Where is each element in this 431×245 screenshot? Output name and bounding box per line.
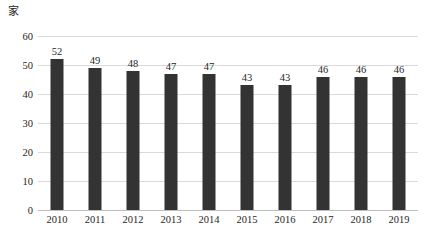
y-axis-tick-label: 50 bbox=[23, 60, 34, 71]
bar-value-label: 46 bbox=[356, 64, 367, 75]
bar-group[interactable]: 432015 bbox=[228, 36, 266, 210]
x-axis-tick-label: 2010 bbox=[47, 214, 68, 226]
bar-value-label: 46 bbox=[318, 64, 329, 75]
bar-group[interactable]: 522010 bbox=[38, 36, 76, 210]
y-axis-tick-label: 30 bbox=[23, 118, 34, 129]
bar[interactable] bbox=[203, 74, 216, 210]
bar-group[interactable]: 462018 bbox=[342, 36, 380, 210]
bar[interactable] bbox=[355, 77, 368, 210]
bar-group[interactable]: 462019 bbox=[380, 36, 418, 210]
x-axis-tick-label: 2015 bbox=[237, 214, 258, 226]
bar[interactable] bbox=[127, 71, 140, 210]
bar-group[interactable]: 472013 bbox=[152, 36, 190, 210]
x-axis-tick-label: 2019 bbox=[389, 214, 410, 226]
bar[interactable] bbox=[51, 59, 64, 210]
x-axis-tick-label: 2013 bbox=[161, 214, 182, 226]
x-axis-tick-label: 2018 bbox=[351, 214, 372, 226]
y-axis-unit-label: 家 bbox=[8, 5, 19, 18]
x-axis-tick-label: 2014 bbox=[199, 214, 220, 226]
y-axis-tick-label: 60 bbox=[23, 31, 34, 42]
bar-value-label: 52 bbox=[52, 46, 63, 57]
bar[interactable] bbox=[89, 68, 102, 210]
x-axis-tick-label: 2017 bbox=[313, 214, 334, 226]
bar-value-label: 47 bbox=[166, 61, 177, 72]
bar[interactable] bbox=[317, 77, 330, 210]
bar[interactable] bbox=[241, 85, 254, 210]
bar-value-label: 47 bbox=[204, 61, 215, 72]
plot-area: 6050403020100522010492011482012472013472… bbox=[38, 36, 418, 210]
bar-group[interactable]: 482012 bbox=[114, 36, 152, 210]
x-axis-tick-label: 2016 bbox=[275, 214, 296, 226]
bar-value-label: 46 bbox=[394, 64, 405, 75]
bar-value-label: 48 bbox=[128, 58, 139, 69]
bar[interactable] bbox=[279, 85, 292, 210]
y-axis-tick-label: 20 bbox=[23, 147, 34, 158]
bar-group[interactable]: 462017 bbox=[304, 36, 342, 210]
bar-value-label: 43 bbox=[242, 72, 253, 83]
x-axis-tick-label: 2011 bbox=[85, 214, 106, 226]
y-axis-tick-label: 0 bbox=[28, 205, 33, 216]
y-axis-tick-label: 40 bbox=[23, 89, 34, 100]
x-axis-tick-label: 2012 bbox=[123, 214, 144, 226]
gridline: 0 bbox=[38, 210, 418, 211]
bar-value-label: 43 bbox=[280, 72, 291, 83]
bar-group[interactable]: 472014 bbox=[190, 36, 228, 210]
bar-value-label: 49 bbox=[90, 55, 101, 66]
bar-group[interactable]: 492011 bbox=[76, 36, 114, 210]
bar-group[interactable]: 432016 bbox=[266, 36, 304, 210]
y-axis-tick-label: 10 bbox=[23, 176, 34, 187]
bar[interactable] bbox=[165, 74, 178, 210]
bar-chart: 家 60504030201005220104920114820124720134… bbox=[0, 0, 431, 245]
bar[interactable] bbox=[393, 77, 406, 210]
